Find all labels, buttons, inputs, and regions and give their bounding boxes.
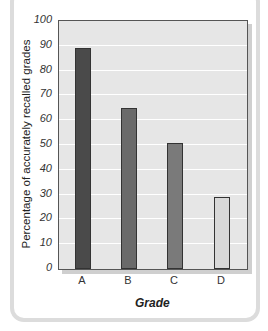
- x-tick-label: D: [211, 274, 231, 286]
- y-tick-label: 0: [20, 261, 52, 273]
- x-tick-label: C: [164, 274, 184, 286]
- bar-d: [214, 197, 230, 269]
- y-axis-label: Percentage of accurately recalled grades: [20, 34, 32, 254]
- plot-area: [58, 20, 248, 270]
- bar-b: [121, 108, 137, 269]
- y-tick-label: 100: [20, 13, 52, 25]
- gridline: [59, 45, 247, 46]
- x-axis-label: Grade: [135, 296, 170, 310]
- x-tick-label: A: [72, 274, 92, 286]
- bar-c: [167, 143, 183, 269]
- x-tick-label: B: [118, 274, 138, 286]
- bar-a: [75, 48, 91, 269]
